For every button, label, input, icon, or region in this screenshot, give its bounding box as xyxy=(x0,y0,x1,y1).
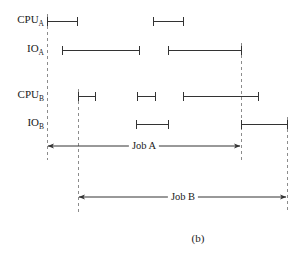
activity-row-io_b xyxy=(136,120,287,129)
activity-segment[interactable] xyxy=(241,120,287,129)
activity-row-io_a xyxy=(62,46,241,55)
row-label-subscript: B xyxy=(39,122,44,131)
row-label-subscript: B xyxy=(39,94,44,103)
row-label-subscript: A xyxy=(39,48,44,57)
row-label-cpu_b: CPUB xyxy=(18,89,44,103)
figure-caption: (b) xyxy=(192,233,205,244)
row-label-io_b: IOB xyxy=(27,117,44,131)
activity-segment[interactable] xyxy=(168,46,241,55)
timing-diagram: CPUAIOACPUBIOBJob AJob B(b) xyxy=(0,0,305,256)
activity-segment[interactable] xyxy=(62,46,139,55)
activity-segment[interactable] xyxy=(153,17,183,26)
span-label-job-a: Job A xyxy=(129,141,159,152)
row-label-text: IO xyxy=(27,116,39,128)
activity-row-cpu_b xyxy=(78,92,258,101)
activity-segment[interactable] xyxy=(47,17,77,26)
activity-segment[interactable] xyxy=(137,92,155,101)
activity-segment[interactable] xyxy=(136,120,168,129)
row-label-cpu_a: CPUA xyxy=(17,14,44,28)
guide-lines-group xyxy=(47,14,287,212)
row-label-subscript: A xyxy=(39,19,44,28)
activity-row-cpu_a xyxy=(47,17,183,26)
row-label-text: CPU xyxy=(18,88,39,100)
diagram-canvas xyxy=(0,0,305,256)
activity-segment[interactable] xyxy=(78,92,95,101)
row-label-io_a: IOA xyxy=(27,43,44,57)
row-label-text: CPU xyxy=(17,13,38,25)
row-label-text: IO xyxy=(27,42,39,54)
span-label-job-b: Job B xyxy=(168,192,198,203)
activity-segment[interactable] xyxy=(183,92,258,101)
